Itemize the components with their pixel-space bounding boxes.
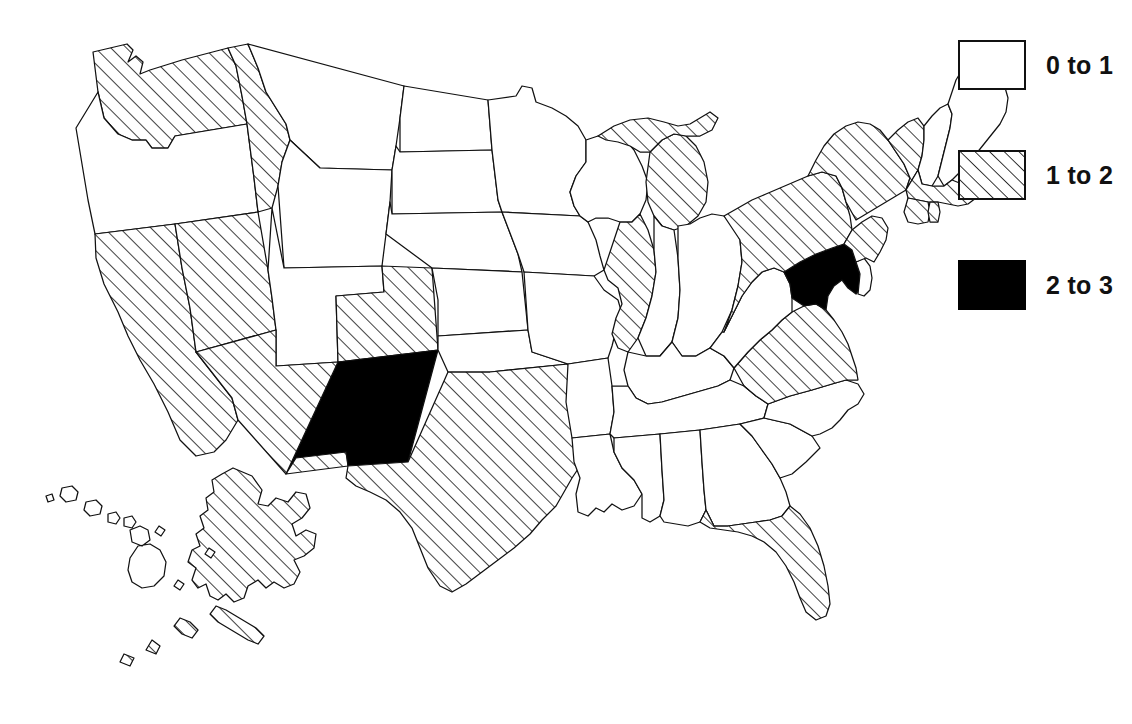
state-AL[interactable] <box>660 430 706 526</box>
legend-swatch-2-to-3 <box>958 260 1026 310</box>
legend-row-0[interactable]: 0 to 1 <box>958 36 1132 94</box>
state-ND[interactable] <box>400 86 492 152</box>
legend: 0 to 1 1 to 2 2 to 3 <box>958 36 1132 366</box>
state-MI[interactable] <box>646 134 708 230</box>
hatch-pattern-icon <box>960 152 1024 198</box>
legend-swatch-1-to-2 <box>958 150 1026 200</box>
legend-swatch-0-to-1 <box>958 40 1026 90</box>
state-KS[interactable] <box>432 268 528 336</box>
states-layer <box>46 44 1008 666</box>
state-RI[interactable] <box>928 202 940 222</box>
legend-label-1-to-2: 1 to 2 <box>1046 161 1113 190</box>
legend-label-0-to-1: 0 to 1 <box>1046 51 1113 80</box>
legend-row-2[interactable]: 2 to 3 <box>958 256 1132 314</box>
state-MO[interactable] <box>524 272 622 364</box>
legend-label-2-to-3: 2 to 3 <box>1046 271 1113 300</box>
choropleth-map-figure: 0 to 1 1 to 2 2 to 3 <box>0 0 1132 724</box>
state-CT[interactable] <box>904 198 930 224</box>
state-SD[interactable] <box>392 146 502 214</box>
legend-row-1[interactable]: 1 to 2 <box>958 146 1132 204</box>
state-AR[interactable] <box>566 358 614 438</box>
state-HI[interactable] <box>46 486 166 588</box>
